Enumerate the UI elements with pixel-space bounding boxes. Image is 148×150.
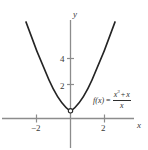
- equation-function-name: f(x): [93, 97, 104, 105]
- equation-denominator: x: [119, 101, 125, 110]
- x-tick-label-pos2: 2: [101, 124, 106, 133]
- equation-fraction: x3+x x: [113, 91, 131, 110]
- plot-canvas: [0, 0, 148, 150]
- y-axis-label: y: [73, 10, 77, 19]
- y-tick-label-4: 4: [60, 55, 65, 64]
- discontinuity-open-circle: [68, 109, 72, 113]
- y-tick-label-2: 2: [60, 82, 65, 91]
- x-axis-label: x: [137, 121, 141, 130]
- numerator-term2: x: [126, 90, 130, 99]
- equation-equals-sign: =: [106, 97, 111, 105]
- function-equation-annotation: f(x) = x3+x x: [93, 91, 131, 110]
- x-tick-label-neg2: −2: [31, 124, 41, 133]
- function-graph-figure: y x −2 2 2 4 f(x) = x3+x x: [0, 0, 148, 150]
- numerator-operator: +: [121, 90, 126, 99]
- equation-numerator: x3+x: [113, 91, 131, 100]
- numerator-exponent: 3: [117, 89, 120, 94]
